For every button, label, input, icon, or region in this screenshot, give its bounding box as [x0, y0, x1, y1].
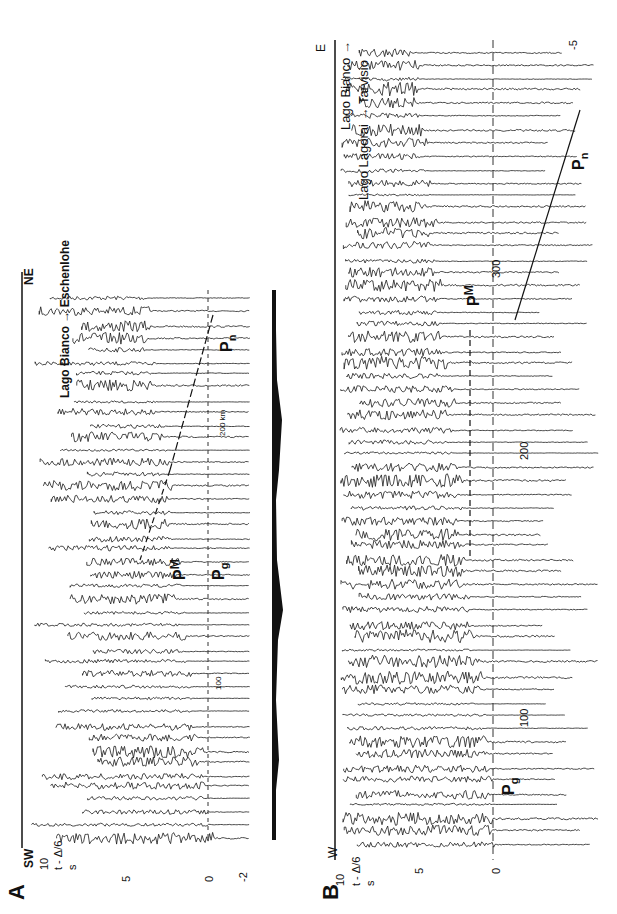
seismogram-trace — [342, 138, 547, 147]
panel-a-tick-5: 5 — [120, 876, 132, 882]
seismogram-trace — [356, 749, 553, 758]
seismogram-trace — [341, 169, 545, 173]
seismogram-trace — [347, 373, 553, 378]
seismogram-trace — [341, 474, 566, 488]
seismogram-trace — [344, 153, 577, 159]
seismogram-trace — [348, 410, 596, 420]
seismogram-trace — [346, 82, 580, 96]
panel-a-axis-unit: s — [66, 865, 78, 871]
seismogram-trace — [356, 790, 566, 799]
seismogram-trace — [49, 545, 250, 551]
seismogram-trace — [344, 825, 580, 836]
seismogram-trace — [346, 259, 588, 263]
panel-a-distance-200: 200 km — [218, 410, 227, 436]
seismogram-trace — [351, 506, 554, 510]
seismogram-trace — [356, 529, 541, 541]
panel-b-direction-start: W — [326, 847, 340, 858]
panel-b-tick-0: 0 — [490, 868, 502, 874]
seismogram-trace — [348, 727, 588, 730]
seismogram-trace — [45, 659, 249, 663]
seismogram-trace — [84, 612, 249, 615]
seismogram-trace — [343, 714, 565, 716]
seismogram-trace — [349, 180, 582, 187]
seismogram-trace — [344, 491, 572, 499]
seismogram-trace — [348, 655, 597, 668]
panel-b-direction-end: E — [314, 44, 328, 52]
panel-a-topography — [272, 290, 283, 840]
seismogram-trace — [77, 380, 250, 391]
seismogram-trace — [358, 227, 559, 238]
seismogram-trace — [74, 401, 250, 403]
seismogram-trace — [57, 832, 249, 844]
seismogram-trace — [68, 632, 250, 640]
panel-b-axis-unit: s — [364, 881, 376, 887]
seismogram-trace — [346, 218, 586, 228]
seismogram-trace — [341, 671, 572, 684]
seismogram-trace — [342, 685, 554, 694]
seismogram-trace — [82, 670, 249, 676]
seismogram-trace — [344, 296, 572, 302]
seismogram-trace — [357, 842, 590, 847]
seismogram-trace — [89, 734, 250, 741]
seismogram-trace — [51, 495, 249, 502]
seismogram-trace — [35, 623, 250, 626]
seismogram-trace — [93, 649, 249, 653]
panel-b-profile-line2: Lago Lagorai → Tarvisio — [356, 60, 371, 200]
panel-a-direction-start: SW — [22, 849, 36, 868]
panel-b-letter: B — [318, 884, 344, 900]
panel-b-profile-line1: Lago Bianco → — [338, 41, 353, 130]
seismogram-trace — [343, 812, 598, 825]
seismogram-trace — [349, 194, 576, 196]
seismogram-trace — [347, 60, 593, 70]
seismogram-trace — [83, 810, 250, 815]
seismogram-trace — [352, 124, 576, 136]
panel-a-axis-formula: t - Δ/6 — [52, 841, 64, 870]
seismogram-trace — [352, 463, 594, 471]
panel-b-traces — [340, 49, 598, 848]
seismogram-trace — [70, 584, 249, 587]
panel-a-profile-title: Lago Bianco → Eschenlohe — [58, 240, 72, 398]
seismogram-trace — [360, 398, 561, 407]
seismogram-trace — [94, 511, 250, 515]
panel-a-tick-0: 0 — [203, 876, 215, 882]
seismogram-trace — [360, 98, 573, 108]
seismogram-trace — [347, 554, 574, 566]
seismogram-trace — [345, 452, 599, 454]
panel-a-letter: A — [4, 884, 30, 900]
seismogram-trace — [349, 440, 587, 444]
panel-b-phase-pn: Pn — [570, 153, 590, 170]
seismogram-trace — [343, 241, 592, 249]
seismogram-trace — [61, 449, 250, 451]
panel-a-phase-pg: Pg — [210, 563, 230, 580]
seismogram-trace — [341, 77, 592, 81]
panel-b-axis-top-label: 10 — [334, 874, 346, 886]
seismogram-trace — [50, 296, 250, 300]
panel-a-axis-top-label: 10 — [38, 858, 50, 870]
panel-b-pn-line — [515, 110, 580, 320]
panel-b-tick-neg5: -5 — [567, 40, 579, 50]
seismogram-trace — [344, 765, 595, 772]
seismogram-trace — [40, 458, 249, 466]
seismogram-trace — [342, 348, 561, 356]
seismogram-trace — [355, 630, 554, 643]
seismogram-trace — [32, 823, 250, 826]
seismogram-trace — [76, 371, 249, 375]
seismogram-trace — [359, 49, 562, 57]
seismogram-trace — [350, 736, 566, 748]
seismogram-trace — [359, 593, 581, 600]
seismogram-trace — [341, 579, 598, 589]
seismogram-trace — [93, 746, 249, 758]
panel-b-axis-formula: t - Δ/6 — [350, 857, 362, 886]
seismogram-trace — [88, 796, 250, 800]
seismogram-trace — [359, 310, 539, 315]
seismogram-trace — [359, 565, 561, 577]
panel-b-distance-300: 300 — [490, 260, 502, 278]
seismogram-trace — [341, 386, 580, 393]
panel-a-tick-neg2: -2 — [237, 872, 249, 882]
panel-b-distance-200: 200 — [518, 442, 530, 460]
seismogram-trace — [342, 649, 570, 651]
panel-a-phase-pn: Pn — [218, 335, 238, 352]
panel-b-phase-pg: Pg — [500, 778, 520, 795]
seismogram-trace — [56, 724, 250, 731]
seismogram-trace — [51, 782, 249, 789]
